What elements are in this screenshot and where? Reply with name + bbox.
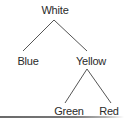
edge-white-blue — [23, 20, 54, 51]
node-blue: Blue — [17, 55, 38, 67]
edge-white-yellow — [54, 20, 87, 51]
bottom-divider — [0, 116, 124, 118]
node-root-white: White — [41, 4, 68, 16]
tree-diagram: White Blue Yellow Green Red — [0, 0, 124, 126]
edge-yellow-red — [87, 69, 111, 103]
node-yellow: Yellow — [76, 55, 106, 67]
edge-yellow-green — [65, 69, 87, 103]
